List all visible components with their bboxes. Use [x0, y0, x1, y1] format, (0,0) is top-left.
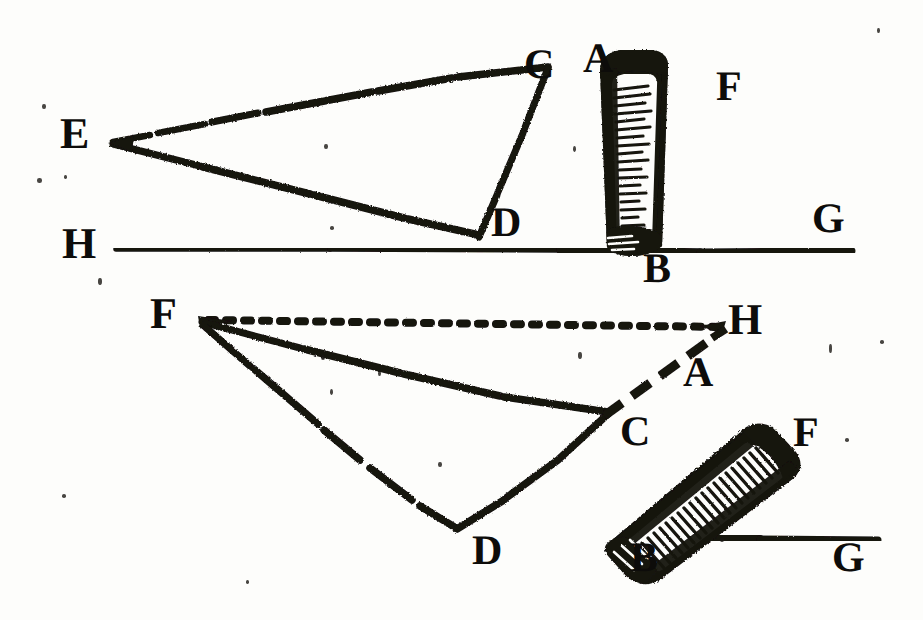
paper-speck [62, 494, 66, 498]
point-label-b: B [643, 248, 671, 290]
paper-speck [64, 175, 67, 179]
paper-speck [37, 178, 42, 183]
point-label-a: A [583, 38, 613, 80]
paper-speck [573, 146, 576, 152]
point-label-a2: A [683, 352, 713, 394]
paper-speck [330, 389, 333, 395]
line-C-to-D-lower [457, 414, 608, 529]
paper-speck [720, 538, 724, 542]
line-F-to-C [202, 322, 608, 412]
point-label-b2: B [630, 537, 658, 579]
paper-speck [829, 344, 832, 353]
dotted-line-F-to-H [198, 316, 726, 334]
paper-speck [246, 580, 249, 584]
paper-speck [877, 28, 880, 33]
paper-speck [438, 462, 442, 467]
line-E-to-C [113, 67, 548, 142]
paper-speck [880, 340, 884, 344]
line-E-to-D [113, 144, 479, 235]
point-label-d: D [491, 202, 521, 244]
point-label-h2: H [728, 298, 762, 342]
point-label-f: F [716, 66, 742, 108]
point-label-f2: F [150, 292, 177, 336]
paper-speck [378, 371, 381, 376]
point-label-c2: C [620, 411, 650, 453]
paper-speck [845, 438, 849, 442]
baseline-H-to-G [116, 249, 852, 252]
diagram-canvas [0, 0, 923, 620]
point-label-g: G [812, 198, 845, 240]
point-label-f3: F [793, 412, 819, 454]
paper-speck [98, 278, 102, 285]
lower-diagram [198, 316, 878, 590]
paper-speck [578, 352, 582, 359]
point-label-e: E [60, 112, 89, 156]
woodcut-figure-page: ECAFDHBG FHACFDBG [0, 0, 923, 620]
point-label-h: H [62, 222, 96, 266]
point-label-g2: G [832, 537, 865, 579]
paper-speck [330, 226, 334, 230]
point-label-d2: D [472, 530, 502, 572]
paper-speck [321, 355, 325, 360]
paper-speck [42, 104, 46, 109]
paper-speck [324, 144, 328, 149]
point-label-c: C [524, 44, 554, 86]
